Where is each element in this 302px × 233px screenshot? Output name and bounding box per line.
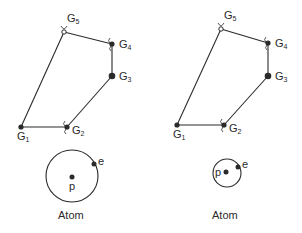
open-mass-icon — [219, 27, 223, 31]
mass-dot-icon — [109, 41, 114, 46]
proton-label: p — [215, 166, 221, 178]
edge-g2-g3 — [67, 76, 112, 127]
node-label-g5: G5 — [224, 9, 237, 22]
mass-dot-icon — [221, 122, 226, 127]
atom-caption: Atom — [58, 209, 84, 221]
proton-dot-icon — [224, 170, 229, 175]
left-panel: G1G2G3G4G5peAtom — [17, 12, 132, 221]
node-label-g4: G4 — [275, 37, 288, 50]
edge-g4-g5 — [221, 29, 268, 43]
spring-icon — [61, 26, 67, 29]
edge-g2-g3 — [224, 76, 268, 125]
spring-icon — [218, 23, 224, 26]
node-label-g5: G5 — [67, 12, 80, 25]
node-label-g3: G3 — [119, 70, 132, 83]
node-label-g3: G3 — [275, 70, 288, 83]
atom-caption: Atom — [212, 209, 238, 221]
node-g5: G5 — [61, 12, 80, 34]
edge-g4-g5 — [64, 32, 112, 44]
electron-label: e — [98, 155, 104, 167]
mass-dot-icon — [265, 40, 270, 45]
node-g2: G2 — [221, 119, 242, 135]
node-label-g4: G4 — [119, 38, 132, 51]
electron-dot-icon — [92, 162, 97, 167]
proton-dot-icon — [70, 175, 75, 180]
node-label-g2: G2 — [229, 122, 242, 135]
edge-g5-g1 — [21, 32, 64, 127]
open-mass-icon — [62, 30, 66, 34]
mass-dot-icon — [64, 124, 69, 129]
node-label-g1: G1 — [173, 128, 186, 141]
node-label-g2: G2 — [72, 124, 85, 137]
electron-label: e — [242, 158, 248, 170]
node-g5: G5 — [218, 9, 237, 31]
right-panel: G1G2G3G4G5peAtom — [173, 9, 288, 221]
node-label-g1: G1 — [17, 130, 30, 143]
node-g2: G2 — [64, 121, 85, 137]
electron-dot-icon — [236, 165, 241, 170]
edge-g5-g1 — [177, 29, 221, 125]
proton-label: p — [69, 180, 75, 192]
gravity-atom-diagram: G1G2G3G4G5peAtom G1G2G3G4G5peAtom — [0, 0, 302, 233]
mass-dot-icon — [265, 73, 272, 80]
mass-dot-icon — [18, 124, 23, 129]
mass-dot-icon — [174, 122, 179, 127]
atom-right: peAtom — [212, 158, 248, 221]
mass-dot-icon — [109, 73, 116, 80]
atom-left: peAtom — [46, 150, 104, 221]
diagram-canvas: G1G2G3G4G5peAtom G1G2G3G4G5peAtom — [0, 0, 302, 233]
